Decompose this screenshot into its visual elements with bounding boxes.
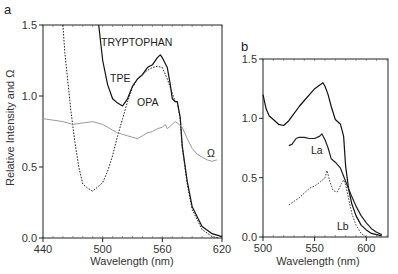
panel-a-ticks: 4405005606200.00.51.01.5 [22,19,231,255]
panel-b-x-axis-label: Wavelength (nm) [276,255,359,267]
x-tick-label: 500 [254,242,272,254]
panel-a-label: a [4,2,12,17]
y-tick-label: 0.0 [22,232,37,244]
annotation-la: La [311,144,323,156]
x-tick-label: 440 [34,243,52,255]
x-tick-label: 550 [305,242,323,254]
annotation-lb: Lb [337,220,349,232]
x-tick-label: 560 [153,243,171,255]
annotation-opa: OPA [137,96,158,108]
x-tick-label: 620 [213,243,231,255]
panel-a-plot-frame [43,25,222,238]
panel-b: b 5005506000.00.51.01.5 Wavelength (nm) … [241,39,388,267]
y-tick-label: 1.0 [242,112,257,124]
series-line [99,25,222,237]
panel-a-series [43,25,222,238]
annotation-tpe: TPE [110,72,130,84]
y-tick-label: 1.5 [242,53,257,65]
series-line [263,83,382,236]
figure: a 4405005606200.00.51.01.5 Relative Inte… [0,0,398,274]
y-tick-label: 1.0 [22,90,37,102]
y-tick-label: 0.5 [242,172,257,184]
panel-b-label: b [241,39,248,54]
panel-a-x-axis-label: Wavelength (nm) [90,255,173,267]
panel-b-plot-frame [263,59,388,237]
series-line [289,134,382,235]
annotation-tryptophan: TRYPTOPHAN [101,36,172,48]
annotation-omega: Ω [207,147,215,159]
x-tick-label: 600 [357,242,375,254]
y-tick-label: 0.5 [22,161,37,173]
series-line [63,25,219,238]
panel-a: a 4405005606200.00.51.01.5 Relative Inte… [4,2,231,267]
series-line [43,119,217,162]
y-tick-label: 1.5 [22,19,37,31]
panel-b-series [263,83,382,237]
panel-a-y-axis-label: Relative Intensity and Ω [4,70,16,186]
y-tick-label: 0.0 [242,231,257,243]
x-tick-label: 500 [93,243,111,255]
